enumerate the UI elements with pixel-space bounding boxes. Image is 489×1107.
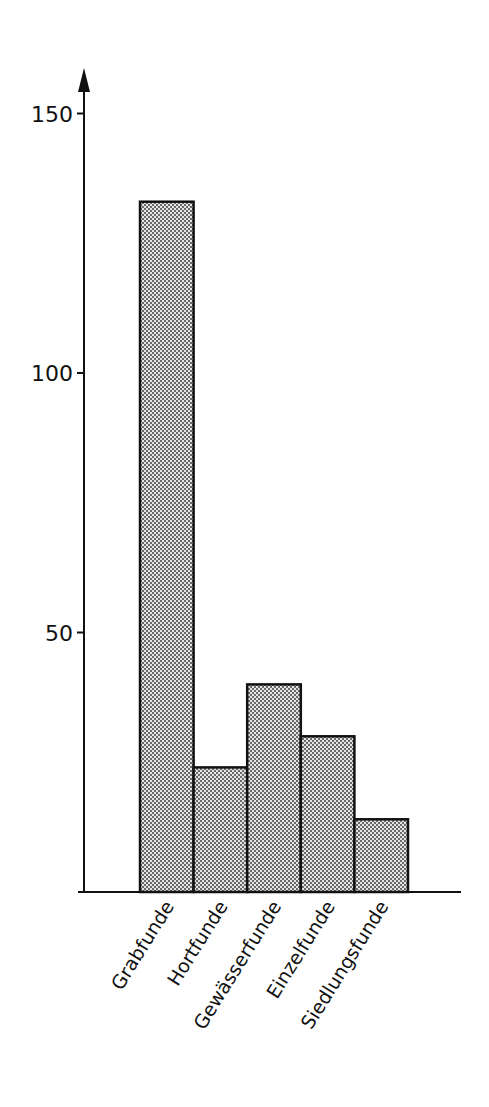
- x-labels-group: GrabfundeHortfundeGewässerfundeEinzelfun…: [106, 896, 392, 1033]
- y-tick-label: 100: [31, 361, 73, 386]
- y-axis-arrow-icon: [78, 68, 90, 92]
- bar-hortfunde: [194, 767, 248, 892]
- bar-siedlungsfunde: [354, 819, 408, 892]
- y-ticks-group: 50100150: [31, 102, 84, 646]
- bar-gewässerfunde: [247, 684, 301, 892]
- bar-chart: 50100150 GrabfundeHortfundeGewässerfunde…: [0, 0, 489, 1107]
- y-tick-label: 150: [31, 102, 73, 127]
- y-tick-label: 50: [45, 621, 73, 646]
- bars-group: [140, 202, 408, 892]
- bar-einzelfunde: [301, 736, 355, 892]
- bar-grabfunde: [140, 202, 194, 892]
